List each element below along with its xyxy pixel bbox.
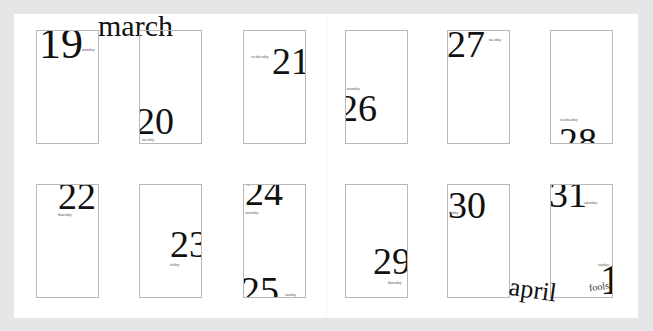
day-box-29: 29 thursday	[345, 184, 408, 298]
weekday-label-24: saturday	[245, 211, 259, 215]
weekday-label: friday	[170, 263, 180, 267]
day-box-30: 30 friday	[447, 184, 510, 298]
day-box-20: 20 tuesday	[139, 30, 202, 144]
day-number-31: 31	[550, 184, 587, 213]
weekday-label: tuesday	[142, 138, 154, 142]
day-box-22: 22 thursday	[36, 184, 99, 298]
weekday-label: tuesday	[489, 38, 501, 42]
weekday-label: friday	[449, 211, 459, 215]
weekday-label: wednesday	[560, 118, 578, 122]
day-number: 26	[345, 89, 377, 127]
weekday-label: monday	[347, 87, 360, 91]
day-box-21: 21 wednesday	[243, 30, 306, 144]
weekday-label: thursday	[388, 281, 402, 285]
day-number: 30	[448, 186, 486, 224]
day-box-31-1: 31 saturday sunday fools 1	[550, 184, 613, 298]
day-number-1: 1	[600, 259, 613, 298]
day-number: 28	[559, 122, 597, 144]
weekday-label: thursday	[58, 213, 72, 217]
weekday-label: monday	[82, 48, 95, 52]
day-number-25: 25	[243, 271, 279, 298]
day-box-27: 27 tuesday	[447, 30, 510, 144]
day-number: 21	[272, 42, 306, 80]
day-box-28: 28 wednesday	[550, 30, 613, 144]
day-box-23: 23 friday	[139, 184, 202, 298]
weekday-label: wednesday	[251, 55, 269, 59]
weekday-label-31: saturday	[584, 201, 598, 205]
day-number: 19	[39, 30, 83, 66]
weekday-label-25: sunday	[285, 293, 296, 297]
day-box-26: 26 monday	[345, 30, 408, 144]
month-label-april: april	[507, 274, 558, 306]
day-box-24-25: 24 saturday 25 sunday	[243, 184, 306, 298]
day-number-24: 24	[245, 184, 283, 211]
page-fold	[326, 14, 327, 318]
day-number: 23	[170, 225, 202, 263]
day-number: 29	[373, 242, 408, 280]
day-box-19: 19 monday	[36, 30, 99, 144]
day-number: 27	[447, 30, 485, 63]
day-number: 22	[58, 184, 96, 215]
day-number: 20	[139, 102, 174, 140]
